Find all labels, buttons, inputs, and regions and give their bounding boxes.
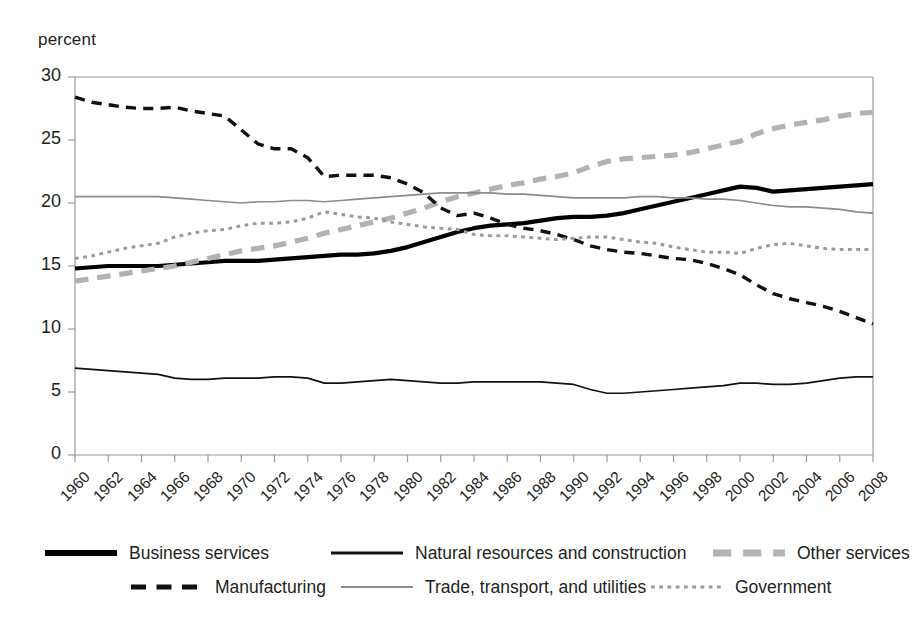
plot-area [0,0,924,627]
series-line-natural-resources-and-construction [75,368,873,393]
legend-swatch-solid-icon [330,546,404,560]
legend-row: ManufacturingTrade, transport, and utili… [0,570,924,604]
legend-item[interactable]: Government [650,577,831,598]
series-line-trade-transport-and-utilities [75,193,873,213]
legend-row: Business servicesNatural resources and c… [0,536,924,570]
legend-swatch-dotted-icon [650,580,724,594]
legend-item[interactable]: Manufacturing [130,577,326,598]
series-line-government [75,212,873,259]
y-axis-tick-label: 20 [19,191,61,212]
legend-label: Business services [129,543,269,564]
legend-label: Government [735,577,831,598]
legend-swatch-dashed-icon [130,580,204,594]
legend-swatch-solid-icon [44,546,118,560]
y-axis-tick-label: 5 [19,380,61,401]
y-axis-tick-label: 25 [19,128,61,149]
y-axis-tick-label: 30 [19,65,61,86]
legend-swatch-dashed-thick-icon [712,546,786,560]
legend-item[interactable]: Business services [44,543,269,564]
y-axis-tick-label: 15 [19,254,61,275]
series-line-other-services [75,112,873,281]
series-line-manufacturing [75,97,873,324]
series-line-business-services [75,184,873,268]
legend-item[interactable]: Natural resources and construction [330,543,686,564]
y-axis-tick-label: 10 [19,317,61,338]
legend-label: Natural resources and construction [415,543,686,564]
legend-item[interactable]: Other services [712,543,910,564]
legend-label: Manufacturing [215,577,326,598]
y-axis-tick-label: 0 [19,443,61,464]
legend-swatch-solid-icon [340,580,414,594]
chart-legend: Business servicesNatural resources and c… [0,536,924,614]
legend-item[interactable]: Trade, transport, and utilities [340,577,646,598]
series-layer [75,97,873,393]
chart-root: percent 051015202530 1960196219641966196… [0,0,924,627]
legend-label: Trade, transport, and utilities [425,577,646,598]
legend-label: Other services [797,543,910,564]
